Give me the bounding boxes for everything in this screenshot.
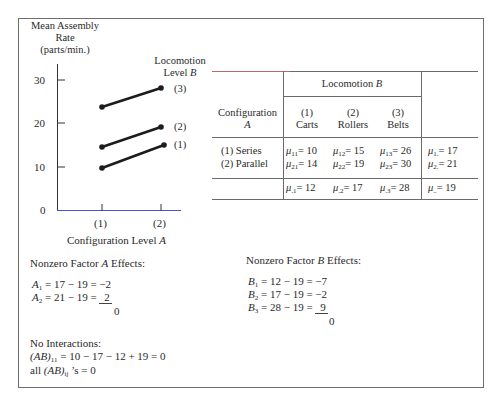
factor-a-line-1: A1 = 17 − 19 = −2 [32, 278, 111, 291]
table-top-rule [290, 71, 478, 72]
x-tick-1: (1) [94, 217, 107, 230]
y-tick-20: 20 [34, 117, 45, 130]
factor-a-line-2: A2 = 21 − 19 = 2 [32, 291, 112, 304]
factor-a-title: Nonzero Factor A Effects: [30, 257, 145, 270]
interactions-title: No Interactions: [30, 337, 101, 350]
x-tick-2: (2) [153, 217, 166, 230]
x-axis-label: Configuration Level A [67, 234, 166, 247]
column-header-rollers: (2) Rollers [331, 107, 375, 131]
factor-b-line-3: B3 = 28 − 19 = 9 [248, 301, 328, 314]
factor-a-sum: 0 [114, 305, 120, 318]
header-bottom-rule [212, 137, 478, 138]
cell-mu-col2: μ.2= 17 [333, 182, 363, 194]
margin-divider [421, 71, 422, 199]
factor-b-sum: 0 [329, 315, 335, 328]
cell-mu-col1: μ.1= 12 [286, 182, 316, 194]
cell-mu-12: μ12= 15 [333, 145, 364, 157]
cell-mu-col3: μ.3= 28 [380, 182, 410, 194]
cell-mu-21: μ21= 14 [286, 158, 317, 170]
cell-mu-2-margin: μ2.= 21 [428, 158, 458, 170]
group-header: Locomotion B [283, 78, 421, 90]
totals-top-rule [212, 178, 478, 179]
y-tick-0: 0 [40, 204, 46, 217]
row-label-parallel: (2) Parallel [221, 158, 268, 170]
factor-b-line-1: B1 = 12 − 19 = −7 [248, 275, 327, 288]
interaction-all: all (AB)ij ’s = 0 [30, 364, 96, 377]
cell-mu-23: μ23= 30 [380, 158, 411, 170]
cell-mu-1-margin: μ1.= 17 [428, 145, 458, 157]
factor-b-title: Nonzero Factor B Effects: [246, 254, 361, 267]
row-label-series: (1) Series [221, 145, 262, 157]
interaction-ab11: (AB)11 = 10 − 17 − 12 + 19 = 0 [30, 350, 166, 363]
series-label-2: (2) [174, 121, 186, 133]
cell-mu-22: μ22= 19 [333, 158, 364, 170]
y-tick-10: 10 [34, 161, 45, 174]
group-header-rule [283, 96, 421, 97]
legend-title: Locomotion Level B [145, 55, 215, 79]
column-header-carts: (1) Carts [285, 107, 329, 131]
table-top-rule-accent [212, 71, 290, 72]
column-header-belts: (3) Belts [376, 107, 420, 131]
row-header-divider [283, 71, 284, 199]
cell-mu-grand: μ..= 19 [428, 182, 456, 194]
series-label-1: (1) [174, 139, 186, 151]
table-bottom-rule [212, 199, 478, 200]
row-header: Configuration A [212, 107, 283, 131]
factor-b-line-2: B2 = 17 − 19 = −2 [248, 288, 327, 301]
cell-mu-13: μ13= 26 [380, 145, 411, 157]
y-tick-30: 30 [34, 74, 45, 87]
cell-mu-11: μ11= 10 [286, 145, 317, 157]
series-label-3: (3) [174, 83, 186, 95]
